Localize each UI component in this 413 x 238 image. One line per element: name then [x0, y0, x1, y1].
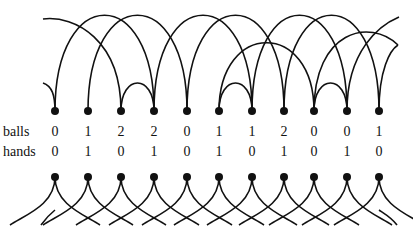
balls-value: 1 [245, 125, 259, 139]
hands-value: 1 [147, 145, 161, 159]
balls-value: 0 [48, 125, 62, 139]
balls-value: 2 [114, 125, 128, 139]
balls-value: 0 [307, 125, 321, 139]
juggling-diagram: balls hands 0122011200101010101010 [0, 0, 413, 238]
hands-value: 0 [245, 145, 259, 159]
hands-value: 0 [307, 145, 321, 159]
hands-value: 1 [340, 145, 354, 159]
balls-value: 0 [180, 125, 194, 139]
balls-value: 0 [340, 125, 354, 139]
hands-value: 0 [48, 145, 62, 159]
hands-value: 1 [277, 145, 291, 159]
balls-value: 2 [147, 125, 161, 139]
hands-value: 1 [212, 145, 226, 159]
hands-value: 0 [114, 145, 128, 159]
balls-value: 1 [372, 125, 386, 139]
hands-value: 0 [372, 145, 386, 159]
arc-diagram [0, 0, 413, 238]
hands-value: 0 [180, 145, 194, 159]
hands-value: 1 [81, 145, 95, 159]
balls-value: 1 [212, 125, 226, 139]
balls-row-label: balls [3, 125, 29, 139]
hands-row-label: hands [3, 145, 36, 159]
balls-value: 1 [81, 125, 95, 139]
balls-value: 2 [277, 125, 291, 139]
